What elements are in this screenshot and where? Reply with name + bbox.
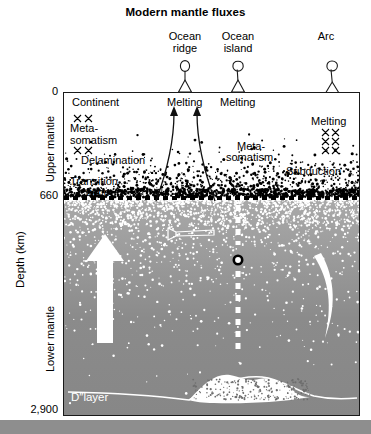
page-bottom-band <box>0 420 371 434</box>
axis-title-depth: Depth (km) <box>14 231 26 288</box>
balloon-on-triangle-icon-ocean-ridge <box>171 58 199 94</box>
lower-mantle-flow-arrow <box>168 228 214 240</box>
feature-label-arc: Arc <box>296 30 356 42</box>
arc-label-line1: Arc <box>296 30 356 42</box>
upwelling-plume-arrow <box>86 234 124 343</box>
layer-label-lower-mantle: Lower mantle <box>44 306 56 372</box>
subducting-slab <box>314 253 333 338</box>
feature-label-ocean-island: Ocean island <box>203 30 273 54</box>
lower-mantle-flux-overlay <box>64 93 360 416</box>
ocean-island-label-line2: island <box>203 42 273 54</box>
annotation-d-layer: D″layer <box>71 391 108 403</box>
balloon-on-wedge-icon-arc <box>317 58 347 96</box>
ocean-island-label-line1: Ocean <box>203 30 273 42</box>
plume-source-marker <box>234 256 242 264</box>
layer-label-upper-mantle: Upper mantle <box>44 116 56 182</box>
mantle-cross-section: Continent Meta- somatism Delamination Tr… <box>63 92 360 416</box>
figure-title: Modern mantle fluxes <box>0 6 371 18</box>
axis-tick-2900: 2,900 <box>8 403 58 415</box>
figure-root: Modern mantle fluxes Ocean ridge Ocean i… <box>0 0 371 434</box>
axis-tick-660: 660 <box>14 189 58 201</box>
axis-tick-0: 0 <box>14 85 58 97</box>
balloon-on-triangle-icon-ocean-island <box>224 58 252 94</box>
